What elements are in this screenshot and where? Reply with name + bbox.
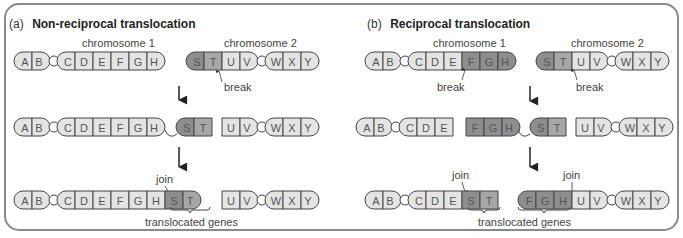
gene-label-t: T	[187, 195, 194, 207]
gene-label-b: B	[386, 56, 393, 68]
chromosome-arm: AB	[365, 52, 401, 70]
gene-label-a: A	[21, 195, 29, 207]
chromosome-arm: UV	[572, 191, 608, 209]
gene-label-b: B	[377, 122, 384, 134]
gene-label-b: B	[386, 195, 393, 207]
gene-label-c: C	[415, 56, 423, 68]
gene-label-f: F	[526, 195, 533, 207]
panel-a-title: (a) Non-reciprocal translocation	[9, 14, 196, 31]
gene-label-w: W	[625, 122, 636, 134]
panel-b-break-pointer-1	[462, 70, 465, 80]
panel-b-title: (b) Reciprocal translocation	[367, 14, 530, 31]
chromosome-arm: AB	[14, 118, 50, 136]
gene-label-v: V	[593, 56, 601, 68]
gene-label-g: G	[489, 122, 498, 134]
chromosome-arm: CDEFGH	[57, 118, 165, 136]
chromosome-arm: WXY	[265, 52, 319, 70]
panel-b: (b) Reciprocal translocation chromosome …	[356, 14, 673, 228]
gene-label-y: Y	[658, 122, 666, 134]
chromosome-arm: WXY	[615, 52, 669, 70]
broken-end-hook	[518, 130, 530, 136]
gene-label-w: W	[271, 122, 282, 134]
gene-label-g: G	[134, 122, 143, 134]
panel-a-row-broken: ABCDEFGHSTUVWXY	[14, 118, 319, 136]
gene-label-t: T	[554, 122, 561, 134]
panel-b-break-label-1: break	[437, 81, 465, 93]
panel-b-break-pointer-2	[574, 70, 577, 80]
chromosome-arm: CDE	[399, 118, 453, 136]
gene-label-d: D	[422, 122, 430, 134]
chromosome-arm: FGH	[518, 191, 572, 209]
gene-label-w: W	[271, 56, 282, 68]
panel-a: (a) Non-reciprocal translocation chromos…	[9, 14, 319, 228]
chromosome-arm: ST	[530, 118, 566, 136]
gene-label-h: H	[152, 195, 160, 207]
gene-label-v: V	[243, 56, 251, 68]
gene-label-v: V	[593, 195, 601, 207]
gene-label-s: S	[193, 56, 200, 68]
gene-label-s: S	[467, 195, 474, 207]
panel-b-join-label-2: join	[562, 169, 580, 181]
panel-b-join-label-1: join	[451, 169, 469, 181]
gene-label-w: W	[621, 56, 632, 68]
panel-a-title-text: Non-reciprocal translocation	[32, 17, 195, 31]
gene-label-e: E	[98, 195, 105, 207]
chromosome-arm: AB	[14, 191, 50, 209]
panel-a-translocated-label: translocated genes	[145, 216, 238, 228]
chromosome-arm: ST	[176, 118, 212, 136]
chromosome-arm: CDEFGH	[57, 52, 165, 70]
gene-label-f: F	[117, 56, 124, 68]
chromosome-arm: WXY	[265, 118, 319, 136]
chromosome-arm: WXY	[615, 191, 669, 209]
panel-b-title-text: Reciprocal translocation	[390, 17, 530, 31]
gene-label-u: U	[577, 56, 585, 68]
gene-label-f: F	[472, 122, 479, 134]
gene-label-d: D	[80, 195, 88, 207]
chromosome-arm: STUV	[536, 52, 608, 70]
gene-label-f: F	[117, 122, 124, 134]
chromosome-arm: WXY	[619, 118, 673, 136]
translocation-figure: (a) Non-reciprocal translocation chromos…	[0, 0, 683, 238]
gene-label-c: C	[64, 122, 72, 134]
gene-label-s: S	[543, 56, 550, 68]
panel-b-row-before: ABCDEFGHSTUVWXY	[365, 52, 669, 70]
gene-label-e: E	[98, 122, 105, 134]
chromosome-arm: CDEFGHST	[57, 191, 201, 209]
gene-label-h: H	[559, 195, 567, 207]
gene-label-t: T	[560, 56, 567, 68]
gene-label-x: X	[642, 122, 650, 134]
chromosome-arm: CDEST	[408, 191, 498, 209]
gene-label-e: E	[98, 56, 105, 68]
gene-label-w: W	[621, 195, 632, 207]
panel-a-row-before: ABCDEFGHSTUVWXY	[14, 52, 319, 70]
gene-label-g: G	[541, 195, 550, 207]
panel-a-break-pointer	[219, 71, 222, 82]
gene-label-y: Y	[304, 195, 312, 207]
chromosome-arm: AB	[14, 52, 50, 70]
gene-label-s: S	[183, 122, 190, 134]
chromosome-arm: UV	[222, 191, 258, 209]
chromosome-arm: UV	[576, 118, 612, 136]
panel-a-chromosome1-label: chromosome 1	[82, 37, 155, 49]
gene-label-t: T	[210, 56, 217, 68]
panel-b-row-broken: ABCDEFGHSTUVWXY	[356, 118, 673, 136]
gene-label-t: T	[200, 122, 207, 134]
panel-a-join-label: join	[155, 173, 173, 185]
gene-label-x: X	[638, 56, 646, 68]
gene-label-x: X	[288, 56, 296, 68]
gene-label-d: D	[431, 56, 439, 68]
gene-label-f: F	[117, 195, 124, 207]
panel-b-row-after: ABCDESTFGHUVWXY	[365, 191, 669, 209]
chromosome-arm: STUV	[186, 52, 258, 70]
gene-label-g: G	[485, 56, 494, 68]
panel-a-chromosome2-label: chromosome 2	[224, 37, 297, 49]
gene-label-a: A	[372, 56, 380, 68]
gene-label-x: X	[288, 122, 296, 134]
gene-label-y: Y	[654, 56, 662, 68]
gene-label-v: V	[243, 195, 251, 207]
gene-label-u: U	[577, 195, 585, 207]
panel-a-prefix: (a)	[9, 17, 24, 31]
gene-label-c: C	[415, 195, 423, 207]
gene-label-h: H	[501, 56, 509, 68]
gene-label-v: V	[597, 122, 605, 134]
